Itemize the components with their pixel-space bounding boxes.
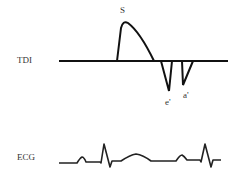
tdi-e-prime-wave xyxy=(161,61,172,91)
s-wave-label: S xyxy=(120,5,125,15)
a-prime-wave-label: a' xyxy=(183,90,189,100)
ecg-trace xyxy=(59,144,221,167)
tdi-s-wave xyxy=(117,22,154,61)
ecg-label: ECG xyxy=(17,152,35,162)
tdi-a-prime-wave xyxy=(182,61,193,85)
tdi-label: TDI xyxy=(17,55,32,65)
e-prime-wave-label: e' xyxy=(165,97,171,107)
